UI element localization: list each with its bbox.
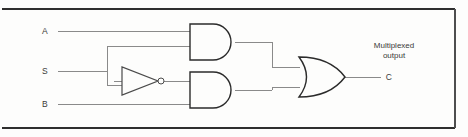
input-label-a: A bbox=[42, 26, 48, 36]
figure-frame bbox=[2, 9, 455, 128]
or-gate-body bbox=[299, 57, 345, 97]
multiplexer-figure: A S B Multiplexed output C bbox=[0, 0, 468, 137]
input-label-s: S bbox=[42, 66, 48, 76]
output-caption-line1: Multiplexed bbox=[374, 41, 414, 50]
gate-and-top bbox=[190, 24, 231, 60]
not-gate-triangle bbox=[122, 67, 158, 95]
gate-not-s bbox=[122, 67, 164, 95]
output-caption-line2: output bbox=[383, 51, 406, 60]
and-gate-body bbox=[190, 24, 231, 60]
not-gate-bubble-icon bbox=[158, 78, 164, 84]
output-label-c: C bbox=[386, 72, 392, 82]
gate-or-out bbox=[299, 57, 345, 97]
input-label-b: B bbox=[42, 99, 48, 109]
gate-and-bottom bbox=[190, 72, 231, 108]
and-gate-body bbox=[190, 72, 231, 108]
